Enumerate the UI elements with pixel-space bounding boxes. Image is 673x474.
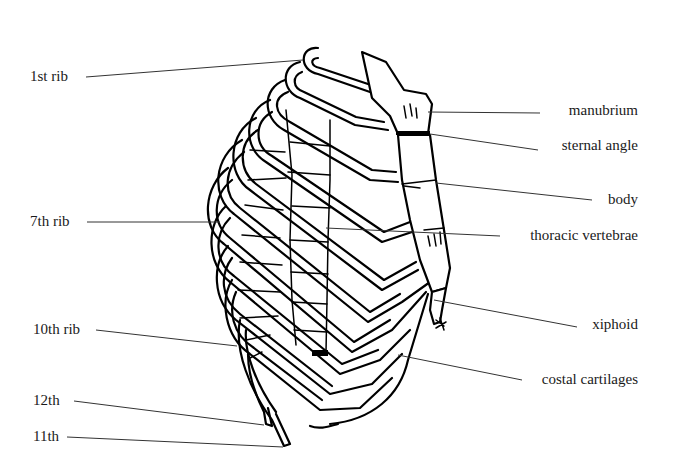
label-body: body — [608, 191, 639, 207]
label-12th-rib: 12th — [33, 392, 60, 408]
sternum-illustration — [362, 52, 450, 330]
leader-lines — [67, 60, 592, 447]
leader-11th-rib — [67, 437, 283, 447]
leader-costal-cartilages — [398, 355, 522, 380]
rib-cage-diagram: 1st rib 7th rib 10th rib 12th 11th manub… — [0, 0, 673, 474]
label-manubrium: manubrium — [569, 102, 638, 118]
label-sternal-angle: sternal angle — [562, 137, 639, 153]
labels-right: manubrium sternal angle body thoracic ve… — [530, 102, 638, 387]
manubrium-shape — [362, 52, 432, 134]
labels-left: 1st rib 7th rib 10th rib 12th 11th — [30, 68, 80, 444]
label-xiphoid: xiphoid — [592, 316, 638, 332]
rib-cage-illustration — [208, 48, 450, 446]
label-1st-rib: 1st rib — [30, 68, 68, 84]
leader-12th-rib — [74, 401, 264, 425]
label-10th-rib: 10th rib — [33, 321, 80, 337]
leader-sternal-angle — [430, 134, 538, 150]
label-thoracic-vertebrae: thoracic vertebrae — [530, 227, 638, 243]
leader-body — [436, 183, 592, 200]
label-11th-rib: 11th — [33, 428, 60, 444]
leader-xiphoid — [434, 300, 577, 327]
leader-manubrium — [428, 112, 540, 113]
leader-10th-rib — [96, 330, 237, 346]
xiphoid-shape — [430, 288, 446, 324]
label-7th-rib: 7th rib — [30, 213, 70, 229]
leader-1st-rib — [86, 60, 303, 77]
label-costal-cartilages: costal cartilages — [542, 371, 638, 387]
